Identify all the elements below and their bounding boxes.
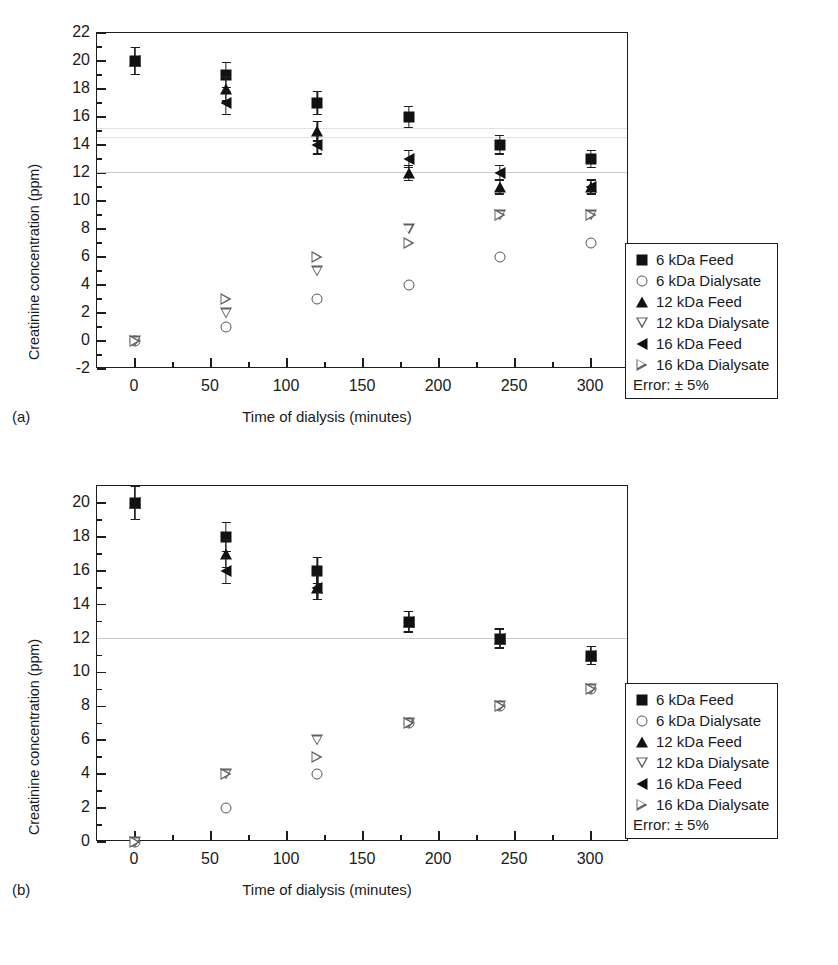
legend-item: 6 kDa Dialysate xyxy=(633,710,769,731)
x-tick-mark xyxy=(590,831,592,840)
y-tick-mark-minor xyxy=(97,158,102,160)
x-tick-label: 100 xyxy=(273,851,300,867)
open-triangle-down-icon xyxy=(633,314,651,332)
panel-tag-b: (b) xyxy=(12,881,30,898)
y-tick-label: 2 xyxy=(81,304,90,320)
y-tick-mark xyxy=(97,144,106,146)
x-tick-label: 300 xyxy=(577,851,604,867)
legend-error-note: Error: ± 5% xyxy=(633,815,769,833)
plot-area-b xyxy=(96,485,628,841)
y-tick-mark-minor xyxy=(97,46,102,48)
y-tick-label: 6 xyxy=(81,248,90,264)
x-tick-label: 100 xyxy=(273,378,300,394)
y-tick-mark xyxy=(97,502,106,504)
y-tick-label: 20 xyxy=(72,494,90,510)
legend-b: 6 kDa Feed6 kDa Dialysate12 kDa Feed12 k… xyxy=(625,683,778,839)
legend-item-label: 6 kDa Feed xyxy=(656,691,734,708)
y-tick-mark-minor xyxy=(97,824,102,826)
filled-triangle-left-icon xyxy=(633,775,651,793)
legend-item-label: 16 kDa Dialysate xyxy=(656,796,769,813)
y-tick-label: 12 xyxy=(72,164,90,180)
x-tick-mark xyxy=(438,831,440,840)
x-tick-label: 200 xyxy=(425,851,452,867)
panel-tag-a: (a) xyxy=(12,408,30,425)
legend-item-label: 16 kDa Feed xyxy=(656,335,742,352)
x-tick-label: 250 xyxy=(501,378,528,394)
scan-artifact-line xyxy=(97,137,627,138)
legend-item: 6 kDa Dialysate xyxy=(633,270,769,291)
x-tick-mark xyxy=(362,831,364,840)
x-tick-label: 150 xyxy=(349,378,376,394)
y-tick-label: 2 xyxy=(81,799,90,815)
y-tick-mark-minor xyxy=(97,130,102,132)
x-tick-mark-minor xyxy=(476,835,478,840)
x-tick-mark xyxy=(590,358,592,367)
y-tick-label: 16 xyxy=(72,562,90,578)
y-tick-mark xyxy=(97,773,106,775)
x-tick-label: 0 xyxy=(130,851,139,867)
x-tick-mark-minor xyxy=(248,362,250,367)
y-tick-label: 14 xyxy=(72,136,90,152)
y-tick-mark-minor xyxy=(97,326,102,328)
legend-item-label: 12 kDa Dialysate xyxy=(656,754,769,771)
y-tick-mark-minor xyxy=(97,519,102,521)
y-tick-label: 12 xyxy=(72,630,90,646)
y-tick-label: -2 xyxy=(76,360,90,376)
y-tick-label: 16 xyxy=(72,108,90,124)
x-axis-title-a: Time of dialysis (minutes) xyxy=(242,408,411,425)
x-tick-mark-minor xyxy=(248,835,250,840)
y-tick-mark-minor xyxy=(97,587,102,589)
legend-item: 6 kDa Feed xyxy=(633,249,769,270)
legend-item: 6 kDa Feed xyxy=(633,689,769,710)
filled-square-icon xyxy=(633,251,651,269)
figure-panel-b: Creatinine concentration (ppm) 024681012… xyxy=(0,440,838,965)
y-tick-label: 20 xyxy=(72,52,90,68)
legend-item-label: 16 kDa Feed xyxy=(656,775,742,792)
y-tick-labels-a: -20246810121416182022 xyxy=(48,0,90,1)
open-triangle-right-icon xyxy=(633,796,651,814)
x-tick-mark-minor xyxy=(552,835,554,840)
x-tick-mark xyxy=(514,358,516,367)
y-tick-mark-minor xyxy=(97,621,102,623)
legend-item-label: 12 kDa Feed xyxy=(656,733,742,750)
y-tick-label: 10 xyxy=(72,192,90,208)
y-tick-mark xyxy=(97,60,106,62)
filled-square-icon xyxy=(633,691,651,709)
x-tick-mark-minor xyxy=(552,362,554,367)
filled-triangle-left-icon xyxy=(633,335,651,353)
legend-a: 6 kDa Feed6 kDa Dialysate12 kDa Feed12 k… xyxy=(625,243,778,399)
y-tick-mark-minor xyxy=(97,553,102,555)
legend-item: 16 kDa Dialysate xyxy=(633,794,769,815)
y-tick-mark xyxy=(97,200,106,202)
y-tick-mark-minor xyxy=(97,354,102,356)
figure-panel-a: Creatinine concentration (ppm) -20246810… xyxy=(0,0,838,470)
x-tick-label: 50 xyxy=(201,378,219,394)
x-tick-label: 150 xyxy=(349,851,376,867)
filled-triangle-up-icon xyxy=(633,293,651,311)
y-tick-mark xyxy=(97,32,106,34)
legend-error-note: Error: ± 5% xyxy=(633,375,769,393)
open-circle-icon xyxy=(633,272,651,290)
x-tick-label: 250 xyxy=(501,851,528,867)
y-tick-mark-minor xyxy=(97,74,102,76)
y-tick-label: 0 xyxy=(81,833,90,849)
y-tick-mark xyxy=(97,340,106,342)
y-tick-mark xyxy=(97,284,106,286)
y-tick-label: 6 xyxy=(81,731,90,747)
legend-item-label: 6 kDa Dialysate xyxy=(656,272,761,289)
legend-item: 12 kDa Feed xyxy=(633,291,769,312)
x-tick-label: 0 xyxy=(130,378,139,394)
x-tick-label: 300 xyxy=(577,378,604,394)
y-tick-mark xyxy=(97,604,106,606)
x-tick-mark xyxy=(362,358,364,367)
y-axis-title-b: Creatinine concentration (ppm) xyxy=(26,639,42,835)
y-tick-mark-minor xyxy=(97,790,102,792)
y-tick-label: 22 xyxy=(72,24,90,40)
legend-item: 16 kDa Dialysate xyxy=(633,354,769,375)
plot-area-a xyxy=(96,32,628,368)
y-tick-mark xyxy=(97,368,106,370)
x-tick-mark-minor xyxy=(324,362,326,367)
x-tick-mark xyxy=(286,358,288,367)
legend-item: 12 kDa Dialysate xyxy=(633,312,769,333)
open-triangle-down-icon xyxy=(633,754,651,772)
